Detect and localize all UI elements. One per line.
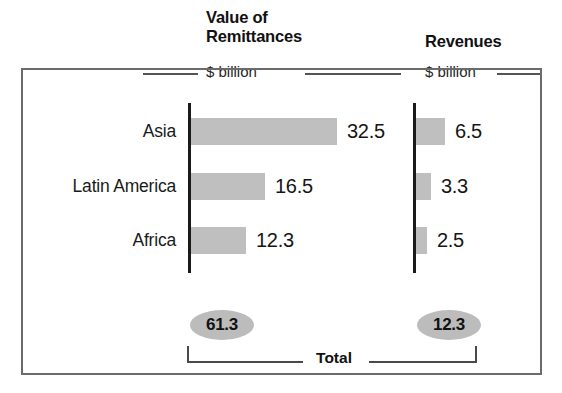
total-value-right: 12.3: [417, 310, 481, 340]
total-bracket-line-right: [369, 361, 477, 363]
total-badge-left: 61.3: [190, 310, 254, 340]
bar-value-right-latin-america: 3.3: [441, 173, 468, 200]
bar-value-left-asia: 32.5: [347, 118, 385, 145]
bar-value-right-africa: 2.5: [437, 227, 464, 254]
row-label-africa: Africa: [26, 227, 176, 254]
bar-value-left-latin-america: 16.5: [275, 173, 313, 200]
right-panel-title: Revenues: [425, 32, 562, 51]
bar-value-left-africa: 12.3: [256, 227, 294, 254]
bar-value-right-asia: 6.5: [455, 118, 482, 145]
row-label-latin-america: Latin America: [26, 173, 176, 200]
total-bracket-line-left: [187, 361, 303, 363]
left-panel-title-line1: Value of: [206, 8, 268, 26]
total-badge-right: 12.3: [417, 310, 481, 340]
bar-left-asia: [191, 118, 337, 145]
bar-right-asia: [416, 118, 445, 145]
bar-right-africa: [416, 227, 427, 254]
row-label-asia: Asia: [26, 118, 176, 145]
left-panel-title: Value ofRemittances: [206, 8, 366, 46]
total-bracket-label: Total: [299, 349, 369, 367]
bar-left-africa: [191, 227, 246, 254]
total-bracket: Total: [187, 346, 477, 364]
bar-left-latin-america: [191, 173, 265, 200]
bar-right-latin-america: [416, 173, 431, 200]
left-panel-title-line2: Remittances: [206, 27, 302, 45]
total-value-left: 61.3: [190, 310, 254, 340]
